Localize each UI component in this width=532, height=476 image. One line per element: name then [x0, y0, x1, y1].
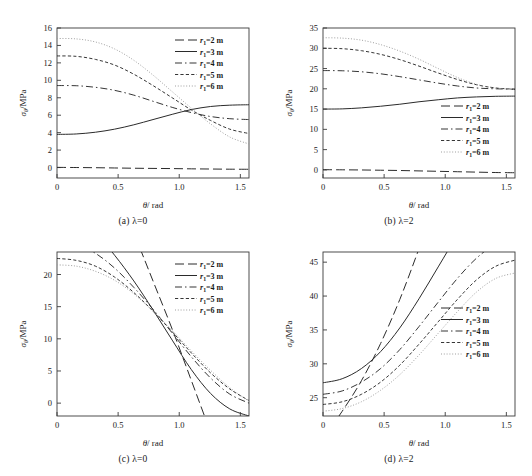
svg-text:0.5: 0.5: [113, 182, 124, 192]
svg-text:r1=5 m: r1=5 m: [200, 71, 224, 81]
svg-text:r1=5 m: r1=5 m: [466, 137, 490, 147]
svg-text:2: 2: [48, 145, 52, 155]
svg-text:15: 15: [310, 104, 319, 114]
svg-text:25: 25: [310, 64, 319, 74]
svg-text:r1=3 m: r1=3 m: [200, 48, 224, 58]
svg-text:σθ/MPa: σθ/MPa: [284, 320, 295, 347]
plot-c: 0510152000.51.01.5θ/ radσθ/MPar1=2 mr1=3…: [0, 238, 266, 476]
svg-text:0: 0: [55, 420, 59, 430]
svg-text:r1=5 m: r1=5 m: [200, 295, 224, 305]
svg-text:10: 10: [44, 334, 53, 344]
svg-text:r1=4 m: r1=4 m: [200, 59, 224, 69]
svg-text:10: 10: [310, 124, 319, 134]
svg-text:r1=2 m: r1=2 m: [200, 36, 224, 46]
svg-text:35: 35: [310, 325, 319, 335]
panel-a: 024681012141600.51.01.5θ/ radσθ/MPar1=2 …: [0, 0, 266, 238]
svg-text:30: 30: [310, 359, 319, 369]
svg-text:r1=6 m: r1=6 m: [200, 306, 224, 316]
svg-text:r1=6 m: r1=6 m: [466, 350, 490, 360]
svg-text:r1=3 m: r1=3 m: [466, 316, 490, 326]
svg-text:0: 0: [321, 420, 325, 430]
svg-text:1.5: 1.5: [501, 420, 512, 430]
svg-text:θ/ rad: θ/ rad: [409, 438, 430, 448]
svg-text:r1=4 m: r1=4 m: [200, 283, 224, 293]
panel-b: 0510152025303500.51.01.5θ/ radσθ/MPar1=2…: [266, 0, 532, 238]
figure-container: 024681012141600.51.01.5θ/ radσθ/MPar1=2 …: [0, 0, 532, 476]
svg-text:r1=2 m: r1=2 m: [466, 304, 490, 314]
svg-text:0.5: 0.5: [113, 420, 124, 430]
svg-text:40: 40: [310, 291, 319, 301]
plot-b: 0510152025303500.51.01.5θ/ radσθ/MPar1=2…: [266, 0, 532, 238]
svg-text:1.5: 1.5: [501, 182, 512, 192]
svg-text:θ/ rad: θ/ rad: [143, 438, 164, 448]
svg-text:12: 12: [44, 58, 53, 68]
svg-text:1.5: 1.5: [235, 420, 246, 430]
svg-text:r1=3 m: r1=3 m: [466, 114, 490, 124]
svg-text:0.5: 0.5: [379, 420, 390, 430]
svg-text:1.0: 1.0: [174, 420, 185, 430]
svg-text:30: 30: [310, 43, 319, 53]
svg-text:0: 0: [321, 182, 325, 192]
caption-b: (b) λ=2: [266, 216, 532, 226]
svg-text:4: 4: [48, 128, 53, 138]
svg-text:1.0: 1.0: [440, 182, 451, 192]
svg-text:25: 25: [310, 393, 319, 403]
svg-text:5: 5: [48, 366, 52, 376]
svg-text:r1=5 m: r1=5 m: [466, 339, 490, 349]
svg-text:r1=4 m: r1=4 m: [466, 327, 490, 337]
svg-text:45: 45: [310, 257, 319, 267]
svg-text:14: 14: [44, 40, 53, 50]
svg-text:0: 0: [48, 163, 52, 173]
svg-text:r1=6 m: r1=6 m: [200, 82, 224, 92]
panel-c: 0510152000.51.01.5θ/ radσθ/MPar1=2 mr1=3…: [0, 238, 266, 476]
svg-text:σθ/MPa: σθ/MPa: [284, 89, 295, 116]
svg-text:1.0: 1.0: [174, 182, 185, 192]
svg-text:r1=6 m: r1=6 m: [466, 148, 490, 158]
svg-text:θ/ rad: θ/ rad: [409, 200, 430, 210]
svg-text:r1=3 m: r1=3 m: [200, 272, 224, 282]
svg-text:16: 16: [44, 23, 53, 33]
svg-text:0.5: 0.5: [379, 182, 390, 192]
svg-text:15: 15: [44, 302, 53, 312]
svg-text:6: 6: [48, 110, 52, 120]
svg-text:1.5: 1.5: [235, 182, 246, 192]
svg-text:5: 5: [314, 145, 318, 155]
svg-text:10: 10: [44, 75, 53, 85]
svg-text:r1=4 m: r1=4 m: [466, 125, 490, 135]
svg-text:0: 0: [55, 182, 59, 192]
panel-d: 253035404500.51.01.5θ/ radσθ/MPar1=2 mr1…: [266, 238, 532, 476]
caption-c: (c) λ=0: [0, 454, 266, 464]
svg-text:σθ/MPa: σθ/MPa: [18, 89, 29, 116]
svg-text:r1=2 m: r1=2 m: [466, 102, 490, 112]
svg-text:1.0: 1.0: [440, 420, 451, 430]
svg-text:θ/ rad: θ/ rad: [143, 200, 164, 210]
plot-a: 024681012141600.51.01.5θ/ radσθ/MPar1=2 …: [0, 0, 266, 238]
svg-text:20: 20: [44, 270, 53, 280]
svg-text:r1=2 m: r1=2 m: [200, 260, 224, 270]
svg-text:0: 0: [48, 398, 52, 408]
svg-text:20: 20: [310, 84, 319, 94]
svg-text:0: 0: [314, 165, 318, 175]
svg-text:σθ/MPa: σθ/MPa: [18, 320, 29, 347]
svg-text:8: 8: [48, 93, 52, 103]
svg-text:35: 35: [310, 23, 319, 33]
caption-d: (d) λ=2: [266, 454, 532, 464]
caption-a: (a) λ=0: [0, 216, 266, 226]
plot-d: 253035404500.51.01.5θ/ radσθ/MPar1=2 mr1…: [266, 238, 532, 476]
